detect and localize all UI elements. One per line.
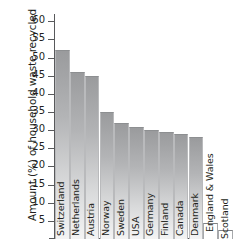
y-tick-mark — [48, 21, 54, 22]
y-tick-label: 60 — [32, 14, 45, 25]
y-tick-label: 35 — [32, 105, 45, 116]
bar[interactable]: USA — [129, 127, 144, 240]
y-tick-mark — [48, 203, 54, 204]
y-tick-mark — [48, 58, 54, 59]
y-tick: 50 — [2, 58, 54, 59]
y-tick: 20 — [2, 166, 54, 167]
y-tick-label: 10 — [32, 196, 45, 207]
y-tick: 30 — [2, 130, 54, 131]
y-tick: 10 — [2, 203, 54, 204]
bar[interactable]: Canada — [174, 134, 189, 239]
y-tick-mark — [48, 94, 54, 95]
bar[interactable]: Austria — [85, 76, 100, 239]
y-tick-label: 15 — [32, 178, 45, 189]
bar-label: Denmark — [189, 193, 200, 236]
bar[interactable]: Scotland — [218, 230, 233, 239]
bar-label: Germany — [144, 193, 155, 236]
bar[interactable]: England & Wales — [203, 223, 218, 239]
bar-label: Norway — [100, 201, 111, 236]
y-tick: 5 — [2, 221, 54, 222]
y-tick-mark — [48, 148, 54, 149]
y-tick-label: 30 — [32, 123, 45, 134]
bar-label: USA — [130, 217, 141, 236]
y-tick: 25 — [2, 148, 54, 149]
bar[interactable]: Netherlands — [70, 72, 85, 239]
y-tick-mark — [48, 112, 54, 113]
y-tick-mark — [48, 185, 54, 186]
y-tick-label: 50 — [32, 51, 45, 62]
bar[interactable]: Switzerland — [55, 50, 70, 239]
bar-label: Canada — [174, 200, 185, 236]
y-tick-label: 55 — [32, 32, 45, 43]
bar[interactable]: Finland — [159, 132, 174, 239]
y-tick-label: 20 — [32, 159, 45, 170]
bar-chart: Amount (%) of household waste recycled 5… — [0, 0, 239, 250]
y-tick-mark — [48, 221, 54, 222]
bar-series: SwitzerlandNetherlandsAustriaNorwaySwede… — [55, 14, 233, 239]
bar-label: Switzerland — [55, 182, 66, 236]
y-tick-label: 5 — [39, 214, 45, 225]
bar-label: England & Wales — [204, 153, 215, 232]
bar-label: Scotland — [219, 198, 230, 239]
plot-area: 51015202530354045505560 SwitzerlandNethe… — [54, 14, 234, 239]
bar[interactable]: Germany — [144, 130, 159, 239]
bar[interactable]: Norway — [100, 112, 115, 239]
bar-label: Sweden — [115, 199, 126, 236]
y-tick: 55 — [2, 39, 54, 40]
y-tick-label: 45 — [32, 69, 45, 80]
y-tick-mark — [48, 166, 54, 167]
y-tick: 15 — [2, 185, 54, 186]
y-tick: 40 — [2, 94, 54, 95]
y-tick: 45 — [2, 76, 54, 77]
bar-label: Finland — [159, 203, 170, 236]
y-tick-mark — [48, 130, 54, 131]
y-tick-mark — [48, 39, 54, 40]
bar-label: Netherlands — [70, 179, 81, 236]
y-tick-mark — [48, 76, 54, 77]
bar[interactable]: Denmark — [189, 137, 204, 239]
bar[interactable]: Sweden — [114, 123, 129, 239]
y-tick: 60 — [2, 21, 54, 22]
y-tick-label: 40 — [32, 87, 45, 98]
y-tick-label: 25 — [32, 141, 45, 152]
y-tick: 35 — [2, 112, 54, 113]
bar-label: Austria — [85, 203, 96, 236]
